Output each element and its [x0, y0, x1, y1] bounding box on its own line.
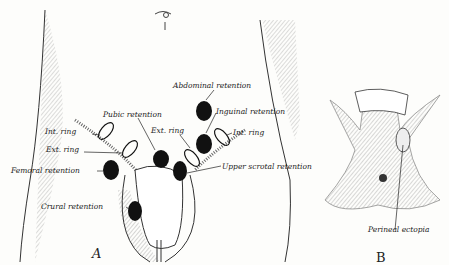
label-perineal-ectopia: Perineal ectopia [368, 226, 430, 234]
panel-label-b: B [376, 250, 386, 265]
label-pubic-retention: Pubic retention [103, 111, 162, 119]
label-ext-ring-right: Ext. ring [151, 127, 184, 135]
crural-retention-spot [128, 201, 142, 221]
upper-scrotal-retention-spot [173, 161, 187, 181]
label-int-ring-right: Int. ring [233, 129, 264, 137]
label-crural-retention: Crural retention [41, 203, 103, 211]
int-ring-right [212, 126, 233, 148]
int-ring-left [96, 120, 117, 142]
label-abdominal-retention: Abdominal retention [173, 82, 251, 90]
label-inguinal-retention: Inguinal retention [216, 108, 285, 116]
label-upper-scrotal-retention: Upper scrotal retention [222, 163, 312, 171]
label-ext-ring-left: Ext. ring [46, 146, 79, 154]
ext-ring-left [120, 138, 141, 160]
panel-label-a: A [92, 246, 101, 261]
inguinal-retention-spot [196, 134, 212, 154]
pubic-retention-spot [153, 150, 169, 168]
anatomical-diagram: Abdominal retention Inguinal retention P… [0, 0, 449, 265]
abdominal-retention-spot [196, 101, 212, 121]
label-int-ring-left: Int. ring [45, 128, 76, 136]
label-femoral-retention: Femoral retention [11, 167, 80, 175]
femoral-retention-spot [103, 160, 119, 180]
